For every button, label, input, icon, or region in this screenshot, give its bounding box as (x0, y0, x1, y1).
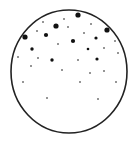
particle-dot (75, 12, 80, 17)
particle-dot (115, 81, 117, 83)
particle-dot (67, 26, 69, 28)
particle-dot (97, 98, 99, 100)
diagram-canvas (0, 0, 136, 143)
particle-dot (79, 81, 81, 83)
particle-dot (83, 32, 85, 34)
particle-dot (22, 81, 24, 83)
particle-dot (61, 69, 63, 71)
particle-dot (30, 65, 32, 67)
particle-dot (87, 48, 90, 51)
particle-dot (90, 23, 92, 25)
particle-dot (117, 52, 119, 54)
particle-dot (104, 27, 109, 32)
particle-dot (22, 34, 27, 39)
container-circle (11, 10, 127, 133)
particle-dot (77, 59, 79, 61)
particle-diagram (0, 0, 136, 143)
particle-dot (114, 40, 116, 42)
particle-dot (103, 70, 105, 72)
particle-dot (94, 36, 97, 39)
particle-dot (63, 18, 65, 20)
particle-dot (50, 58, 53, 61)
particle-dot (30, 47, 33, 50)
particle-dot (53, 23, 58, 28)
particle-dot (36, 30, 38, 32)
particle-dot (44, 33, 48, 37)
particle-dot (89, 72, 91, 74)
particle-dot (71, 39, 75, 43)
particle-dot (17, 56, 19, 58)
particle-dot (103, 47, 105, 49)
particle-dot (46, 97, 48, 99)
particle-dot (95, 57, 98, 60)
particle-dot (37, 57, 39, 59)
particle-dot (42, 21, 44, 23)
particle-dot (57, 43, 59, 45)
